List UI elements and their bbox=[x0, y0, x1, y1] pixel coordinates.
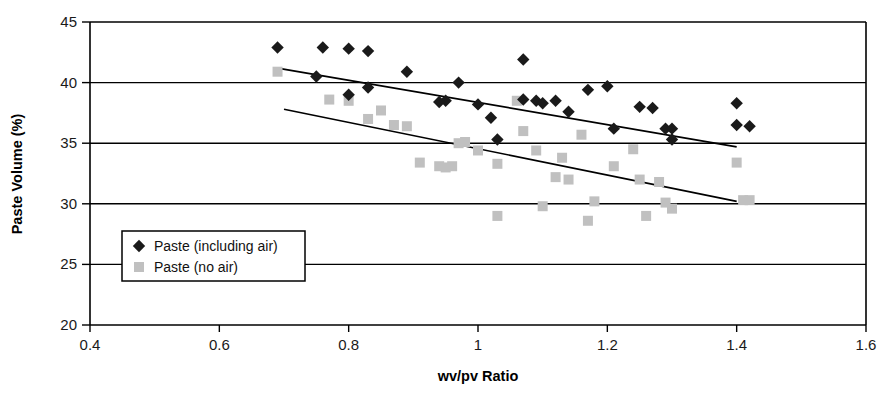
y-tick-label: 30 bbox=[60, 195, 77, 212]
data-point-square bbox=[576, 130, 586, 140]
y-tick-label: 35 bbox=[60, 134, 77, 151]
data-point-square bbox=[745, 195, 755, 205]
legend-label: Paste (including air) bbox=[154, 238, 278, 254]
data-point-diamond bbox=[310, 70, 322, 82]
data-point-diamond bbox=[472, 98, 484, 110]
y-axis-title: Paste Volume (%) bbox=[9, 114, 25, 235]
x-tick-label: 0.4 bbox=[80, 336, 101, 353]
data-point-square bbox=[531, 145, 541, 155]
data-point-square bbox=[134, 262, 144, 272]
data-point-square bbox=[538, 201, 548, 211]
data-point-diamond bbox=[485, 112, 497, 124]
data-point-square bbox=[447, 161, 457, 171]
data-point-diamond bbox=[666, 122, 678, 134]
legend-label: Paste (no air) bbox=[154, 259, 238, 275]
data-point-diamond bbox=[517, 53, 529, 65]
data-point-diamond bbox=[601, 80, 613, 92]
data-point-square bbox=[415, 158, 425, 168]
data-point-diamond bbox=[342, 42, 354, 54]
series-paste-including-air bbox=[271, 41, 755, 146]
data-point-diamond bbox=[549, 95, 561, 107]
data-point-square bbox=[492, 159, 502, 169]
y-tick-label: 25 bbox=[60, 255, 77, 272]
chart-canvas: 0.40.60.811.21.41.6 202530354045 Paste (… bbox=[0, 0, 889, 405]
data-point-square bbox=[557, 153, 567, 163]
data-point-diamond bbox=[491, 133, 503, 145]
data-point-diamond bbox=[582, 84, 594, 96]
data-point-diamond bbox=[646, 102, 658, 114]
data-point-square bbox=[583, 216, 593, 226]
data-point-square bbox=[402, 121, 412, 131]
data-point-square bbox=[667, 204, 677, 214]
data-point-square bbox=[635, 175, 645, 185]
data-point-diamond bbox=[362, 45, 374, 57]
data-point-diamond bbox=[730, 97, 742, 109]
data-point-square bbox=[460, 137, 470, 147]
data-point-square bbox=[589, 196, 599, 206]
data-point-square bbox=[654, 177, 664, 187]
data-point-diamond bbox=[317, 41, 329, 53]
trendline bbox=[284, 109, 737, 201]
data-point-square bbox=[609, 161, 619, 171]
data-point-square bbox=[363, 114, 373, 124]
series-paste-no-air bbox=[273, 67, 755, 226]
data-point-square bbox=[324, 95, 334, 105]
data-point-diamond bbox=[271, 41, 283, 53]
data-point-square bbox=[551, 172, 561, 182]
y-axis-ticks: 202530354045 bbox=[60, 13, 90, 333]
x-axis-title: wv/pv Ratio bbox=[437, 368, 519, 384]
data-point-square bbox=[628, 144, 638, 154]
data-point-diamond bbox=[452, 76, 464, 88]
trendlines bbox=[278, 68, 737, 201]
data-point-square bbox=[389, 120, 399, 130]
data-point-diamond bbox=[401, 65, 413, 77]
data-point-square bbox=[641, 211, 651, 221]
data-point-square bbox=[492, 211, 502, 221]
x-tick-label: 0.6 bbox=[209, 336, 230, 353]
trendline bbox=[278, 68, 737, 147]
data-point-diamond bbox=[562, 105, 574, 117]
data-point-diamond bbox=[743, 120, 755, 132]
y-tick-label: 45 bbox=[60, 13, 77, 30]
data-point-square bbox=[376, 105, 386, 115]
x-tick-label: 1.4 bbox=[726, 336, 747, 353]
x-axis-ticks: 0.40.60.811.21.41.6 bbox=[80, 325, 877, 353]
x-tick-label: 1.6 bbox=[856, 336, 877, 353]
scatter-chart: 0.40.60.811.21.41.6 202530354045 Paste (… bbox=[0, 0, 889, 405]
data-point-square bbox=[273, 67, 283, 77]
y-tick-label: 40 bbox=[60, 74, 77, 91]
data-point-square bbox=[564, 175, 574, 185]
data-point-square bbox=[518, 126, 528, 136]
y-tick-label: 20 bbox=[60, 316, 77, 333]
x-tick-label: 1.2 bbox=[597, 336, 618, 353]
chart-legend: Paste (including air)Paste (no air) bbox=[122, 231, 305, 281]
data-point-diamond bbox=[633, 101, 645, 113]
data-point-square bbox=[732, 158, 742, 168]
data-point-square bbox=[473, 145, 483, 155]
x-tick-label: 1 bbox=[474, 336, 482, 353]
x-tick-label: 0.8 bbox=[338, 336, 359, 353]
data-point-diamond bbox=[730, 119, 742, 131]
